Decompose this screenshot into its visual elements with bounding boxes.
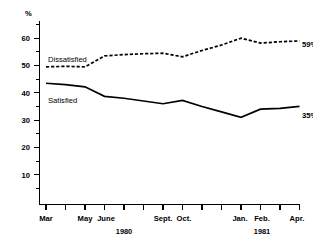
x-tick-label-sept: Sept. — [154, 214, 173, 223]
y-tick-label-60: 60 — [22, 34, 30, 43]
x-tick-label-oct: Oct. — [177, 214, 192, 223]
x-axis-year-1981: 1981 — [254, 227, 270, 236]
y-tick-label-50: 50 — [22, 61, 30, 70]
series-label-satisfied: Satisfied — [48, 96, 77, 105]
x-tick-label-jan: Jan. — [232, 214, 247, 223]
y-axis-unit-label: % — [25, 9, 32, 18]
line-chart-satisfaction: % 60 50 40 30 20 10 — [0, 0, 313, 243]
x-tick-label-apr: Apr. — [290, 214, 305, 223]
x-tick-label-feb: Feb. — [254, 214, 270, 223]
series-label-dissatisfied: Dissatisfied — [48, 55, 87, 64]
x-axis-year-1980: 1980 — [116, 227, 132, 236]
x-tick-label-june: June — [97, 214, 115, 223]
series-line-satisfied — [46, 83, 300, 117]
y-tick-label-20: 20 — [22, 143, 30, 152]
y-tick-label-30: 30 — [22, 116, 30, 125]
x-tick-label-may: May — [78, 214, 94, 223]
y-tick-label-10: 10 — [22, 171, 30, 180]
y-tick-label-40: 40 — [22, 89, 30, 98]
end-value-label-dissatisfied: 59% — [302, 40, 313, 49]
x-axis-ticks — [46, 205, 300, 210]
end-value-label-satisfied: 35% — [302, 111, 313, 120]
y-axis-ticks — [34, 25, 40, 189]
x-tick-label-mar: Mar — [39, 214, 53, 223]
chart-canvas: % 60 50 40 30 20 10 — [0, 0, 313, 243]
chart-axes — [40, 21, 301, 205]
